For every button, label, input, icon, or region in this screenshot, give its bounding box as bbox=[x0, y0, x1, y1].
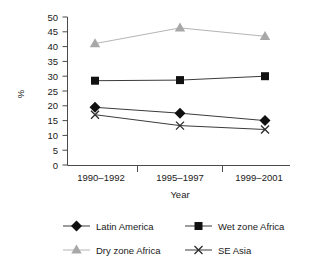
x-tick-label-0: 1990–1992 bbox=[77, 172, 125, 183]
y-tick-label-10: 10 bbox=[47, 130, 58, 141]
x-axis-title: Year bbox=[170, 189, 189, 200]
y-tick-label-20: 20 bbox=[47, 100, 58, 111]
legend-label-se-asia: SE Asia bbox=[218, 245, 252, 256]
y-tick-label-5: 5 bbox=[53, 145, 58, 156]
x-tick-label-2: 1999–2001 bbox=[235, 172, 283, 183]
legend-label-latin-america: Latin America bbox=[96, 221, 154, 232]
y-tick-label-15: 15 bbox=[47, 115, 58, 126]
legend-item-se-asia: SE Asia bbox=[185, 245, 252, 256]
y-tick-label-45: 45 bbox=[47, 26, 58, 37]
data-point-latin-america-2 bbox=[260, 115, 271, 126]
legend-item-latin-america: Latin America bbox=[63, 221, 154, 232]
y-axis-title: % bbox=[15, 89, 26, 98]
y-tick-labels: 50 45 40 35 30 25 20 15 10 5 0 bbox=[47, 12, 58, 171]
y-tick-label-0: 0 bbox=[53, 160, 58, 171]
line-chart: 50 45 40 35 30 25 20 15 10 5 0 % 1990–19… bbox=[0, 0, 316, 266]
legend-item-dry-zone-africa: Dry zone Africa bbox=[63, 245, 161, 256]
data-point-wet-zone-africa-0 bbox=[91, 77, 99, 85]
series-dry-zone-africa bbox=[90, 23, 270, 48]
series-latin-america bbox=[90, 102, 271, 126]
data-point-dry-zone-africa-1 bbox=[175, 23, 185, 32]
y-tick-label-30: 30 bbox=[47, 71, 58, 82]
axis-group bbox=[63, 17, 291, 172]
legend-label-dry-zone-africa: Dry zone Africa bbox=[96, 245, 161, 256]
chart-legend: Latin America Wet zone Africa Dry zone A… bbox=[63, 221, 285, 256]
legend-label-wet-zone-africa: Wet zone Africa bbox=[218, 221, 285, 232]
legend-item-wet-zone-africa: Wet zone Africa bbox=[185, 221, 285, 232]
y-tick-label-50: 50 bbox=[47, 12, 58, 23]
data-point-wet-zone-africa-2 bbox=[261, 72, 269, 80]
legend-marker-diamond-icon bbox=[71, 221, 82, 232]
y-tick-label-25: 25 bbox=[47, 86, 58, 97]
chart-container: 50 45 40 35 30 25 20 15 10 5 0 % 1990–19… bbox=[0, 0, 316, 266]
legend-marker-triangle-icon bbox=[71, 245, 81, 254]
data-point-wet-zone-africa-1 bbox=[176, 76, 184, 84]
y-tick-label-40: 40 bbox=[47, 41, 58, 52]
series-wet-zone-africa bbox=[91, 72, 269, 85]
x-tick-labels: 1990–1992 1995–1997 1999–2001 bbox=[77, 172, 283, 183]
legend-marker-square-icon bbox=[195, 222, 203, 230]
data-point-latin-america-1 bbox=[175, 108, 186, 119]
y-tick-label-35: 35 bbox=[47, 56, 58, 67]
data-point-dry-zone-africa-2 bbox=[260, 31, 270, 40]
x-tick-label-1: 1995–1997 bbox=[156, 172, 204, 183]
